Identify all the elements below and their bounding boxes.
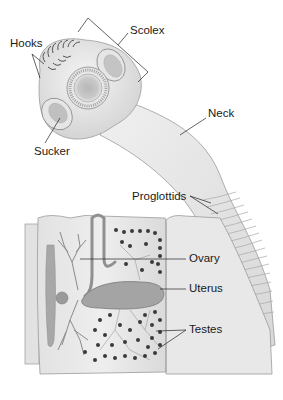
label-neck: Neck xyxy=(208,108,234,120)
label-hooks: Hooks xyxy=(10,38,43,50)
label-sucker: Sucker xyxy=(34,146,70,158)
label-testes: Testes xyxy=(189,324,222,336)
label-ovary: Ovary xyxy=(189,253,220,265)
label-uterus: Uterus xyxy=(189,283,223,295)
label-proglottids: Proglottids xyxy=(132,191,186,203)
label-scolex: Scolex xyxy=(130,25,165,37)
sucker-center xyxy=(67,67,109,109)
tapeworm-diagram: Hooks Scolex Sucker Neck Proglottids Ova… xyxy=(0,0,283,400)
